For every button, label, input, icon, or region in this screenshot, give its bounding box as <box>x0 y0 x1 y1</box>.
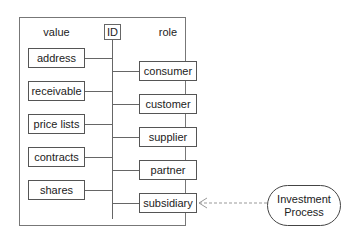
process-label-line1: Investment <box>277 193 331 206</box>
process-label-line2: Process <box>277 206 331 219</box>
investment-process-node[interactable]: Investment Process <box>267 185 341 226</box>
